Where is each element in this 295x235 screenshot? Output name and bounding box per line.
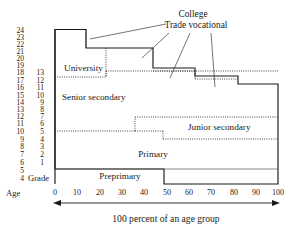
leader-college-left	[90, 24, 166, 39]
callout-label-college: College	[178, 9, 207, 19]
region-label-senior-secondary: Senior secondary	[62, 92, 126, 102]
region-label-preprimary: Preprimary	[99, 171, 141, 181]
age-tick: 4	[20, 174, 24, 183]
x-tick: 30	[118, 188, 126, 197]
enrollment-outline	[55, 30, 278, 185]
x-tick: 20	[96, 188, 104, 197]
x-tick: 10	[73, 188, 81, 197]
x-axis-ticks: 0 10 20 30 40 50 60 70 80 90 100	[53, 188, 284, 197]
enrollment-silhouette	[55, 30, 278, 185]
x-tick: 80	[230, 188, 238, 197]
education-attainment-chart: 24 23 22 21 20 19 18 17 16 15 14 13 12 1…	[0, 0, 295, 235]
callout-label-trade-vocational: Trade vocational	[165, 20, 228, 30]
grade-axis-label: Grade	[28, 173, 49, 183]
age-axis-ticks: 24 23 22 21 20 19 18 17 16 15 14 13 12 1…	[16, 26, 24, 183]
x-tick: 90	[252, 188, 260, 197]
x-tick: 0	[53, 188, 57, 197]
arrow-head-left	[53, 200, 61, 206]
x-axis-arrow	[53, 200, 280, 206]
region-label-junior-secondary: Junior secondary	[188, 122, 251, 132]
x-tick: 40	[140, 188, 148, 197]
x-tick: 50	[163, 188, 171, 197]
age-axis-label: Age	[6, 188, 21, 198]
chart-caption: 100 percent of an age group	[112, 213, 220, 224]
region-label-primary: Primary	[138, 149, 168, 159]
grade-axis-ticks: 13 12 11 10 9 8 7 6 5 4 3 2 1	[36, 68, 44, 167]
chart-figure: 24 23 22 21 20 19 18 17 16 15 14 13 12 1…	[0, 0, 295, 235]
x-tick: 100	[272, 188, 284, 197]
region-label-university: University	[64, 63, 103, 73]
x-tick: 70	[207, 188, 215, 197]
x-tick: 60	[185, 188, 193, 197]
leader-trade-a	[142, 33, 169, 58]
grade-tick: 1	[40, 158, 44, 167]
arrow-head-right	[272, 200, 280, 206]
